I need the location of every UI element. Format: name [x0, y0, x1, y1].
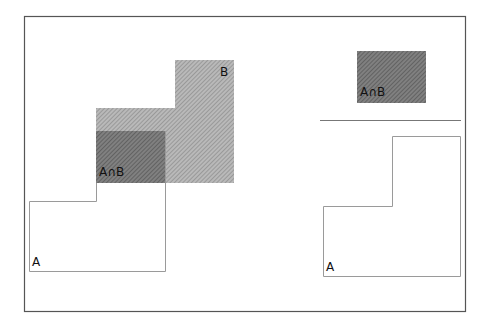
- label-a-right: A: [326, 260, 335, 274]
- label-b: B: [220, 65, 228, 79]
- diagram-canvas: B A∩B A A∩B A: [0, 0, 483, 324]
- shape-a-right: [324, 137, 461, 277]
- label-intersection-right: A∩B: [360, 85, 385, 99]
- label-a-left: A: [32, 255, 41, 269]
- label-intersection-left: A∩B: [99, 165, 124, 179]
